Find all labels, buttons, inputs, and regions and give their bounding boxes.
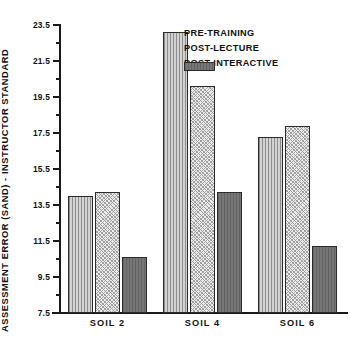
bar-soil-6-post-lecture[interactable] [285,126,311,313]
bar-soil-6-pre-training[interactable] [258,137,284,313]
bar-chart: ASSESSMENT ERROR (SAND) - INSTRUCTOR STA… [0,0,358,351]
legend-item-post-lecture[interactable]: POST-LECTURE [184,41,349,55]
y-tick-label: 19.5 [22,92,50,102]
y-tick-label: 11.5 [22,236,50,246]
bar-soil-4-pre-training[interactable] [163,32,189,313]
y-tick-major [53,132,60,133]
y-tick-major [53,276,60,277]
bar-soil-6-post-interactive[interactable] [312,246,338,313]
legend-label-pre-training: PRE-TRAINING [184,28,255,38]
legend-item-post-interactive[interactable]: POST-INTERACTIVE [184,56,349,70]
legend: PRE-TRAINING POST-LECTURE POST-INTERACTI… [184,26,349,71]
legend-item-pre-training[interactable]: PRE-TRAINING [184,26,349,40]
bar-soil-4-post-lecture[interactable] [190,86,216,313]
y-tick-label: 7.5 [22,308,50,318]
y-axis-tick-labels: 7.59.511.513.515.517.519.521.523.5 [20,0,50,351]
y-tick-major [53,96,60,97]
bar-soil-4-post-interactive[interactable] [217,192,243,313]
y-tick-label: 17.5 [22,128,50,138]
bar-soil-2-post-interactive[interactable] [122,257,148,313]
y-tick-major [53,168,60,169]
legend-swatch-post-interactive [184,62,215,72]
x-axis-label-soil-2: SOIL 2 [60,318,155,328]
y-tick-label: 21.5 [22,56,50,66]
y-tick-label: 9.5 [22,272,50,282]
bar-soil-2-pre-training[interactable] [68,196,94,313]
y-axis-title: ASSESSMENT ERROR (SAND) - INSTRUCTOR STA… [0,49,10,332]
y-tick-label: 15.5 [22,164,50,174]
y-tick-major [53,60,60,61]
x-axis-label-soil-6: SOIL 6 [250,318,345,328]
y-tick-label: 13.5 [22,200,50,210]
y-tick-major [53,204,60,205]
y-tick-major [53,240,60,241]
bar-soil-2-post-lecture[interactable] [95,192,121,313]
y-tick-major [53,312,60,313]
y-tick-major [53,24,60,25]
x-axis-label-soil-4: SOIL 4 [155,318,250,328]
legend-label-post-lecture: POST-LECTURE [184,43,259,53]
y-tick-label: 23.5 [22,20,50,30]
